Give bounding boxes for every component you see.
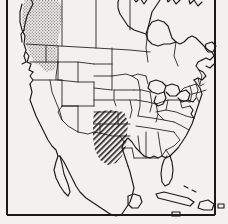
- north-america-map: [0, 0, 228, 224]
- distribution-map-figure: [0, 0, 228, 224]
